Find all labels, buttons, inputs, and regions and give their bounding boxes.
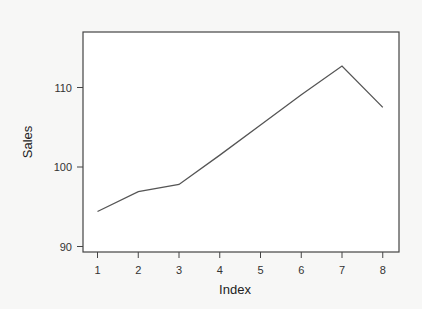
x-tick-label: 1 — [94, 264, 100, 276]
x-axis-title: Index — [219, 282, 251, 297]
x-axis: 12345678 — [94, 252, 385, 276]
x-tick-label: 7 — [339, 264, 345, 276]
x-tick-label: 5 — [257, 264, 263, 276]
y-tick-label: 110 — [54, 82, 72, 94]
y-axis: 90100110 — [54, 82, 83, 253]
x-tick-label: 3 — [176, 264, 182, 276]
x-tick-label: 4 — [217, 264, 223, 276]
y-tick-label: 90 — [60, 241, 72, 253]
y-axis-title: Sales — [20, 125, 35, 158]
x-tick-label: 2 — [135, 264, 141, 276]
y-tick-label: 100 — [54, 161, 72, 173]
x-tick-label: 6 — [298, 264, 304, 276]
x-tick-label: 8 — [380, 264, 386, 276]
plot-area — [83, 32, 399, 252]
line-chart: 90100110 12345678 Index Sales — [0, 0, 422, 309]
